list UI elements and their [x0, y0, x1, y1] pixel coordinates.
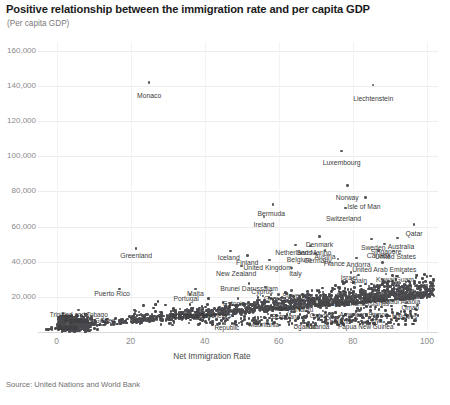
data-point [338, 290, 341, 293]
x-tick-label: 0 [37, 336, 77, 346]
data-point [429, 275, 432, 278]
y-tick-label: 60,000 [2, 222, 36, 231]
data-point [199, 322, 202, 325]
data-point [404, 323, 407, 326]
data-point [418, 295, 421, 298]
data-point [96, 328, 99, 331]
point-label: Turkey [271, 306, 290, 312]
x-tick-label: 60 [259, 336, 299, 346]
data-point [311, 289, 314, 292]
data-point [201, 305, 204, 308]
data-point [265, 305, 268, 308]
gridline-vertical [279, 42, 280, 332]
data-point-labeled [324, 249, 327, 252]
point-label: Bosnia [58, 325, 78, 331]
y-tick-label: 80,000 [2, 186, 36, 195]
data-point-labeled [272, 203, 275, 206]
data-point [93, 327, 96, 330]
data-point [374, 308, 377, 311]
data-point [354, 319, 357, 322]
data-point [374, 289, 377, 292]
data-point [407, 287, 410, 290]
data-point [160, 319, 163, 322]
y-tick-label: 40,000 [2, 257, 36, 266]
data-point [359, 285, 362, 288]
data-point-labeled [148, 81, 151, 84]
data-point [179, 308, 182, 311]
data-point [426, 275, 429, 278]
data-point [388, 291, 391, 294]
data-point [135, 321, 138, 324]
data-point [204, 320, 207, 323]
point-label: Greenland [120, 253, 152, 260]
chart-subtitle: (Per capita GDP) [7, 19, 69, 28]
data-point [153, 318, 156, 321]
data-point [432, 288, 435, 291]
data-point [211, 323, 214, 326]
source-note: Source: United Nations and World Bank [6, 380, 140, 389]
data-point [334, 311, 337, 314]
data-point [376, 292, 379, 295]
y-tick-label: 20,000 [2, 292, 36, 301]
point-label: Liechtenstein [353, 96, 393, 103]
point-label: Greece [264, 296, 286, 303]
gridline-horizontal [38, 51, 438, 52]
data-point [156, 315, 159, 318]
data-point-labeled [309, 245, 312, 248]
data-point-labeled [350, 271, 353, 274]
data-point [206, 303, 209, 306]
data-point-labeled [135, 247, 138, 250]
data-point [257, 317, 260, 320]
data-point [207, 297, 210, 300]
point-label: Bermuda [258, 211, 286, 218]
chart-title: Positive relationship between the immigr… [6, 3, 370, 15]
data-point [391, 308, 394, 311]
data-point [165, 319, 168, 322]
point-label: United States [375, 254, 416, 261]
x-tick-label: 80 [333, 336, 373, 346]
data-point [342, 283, 345, 286]
data-point [148, 317, 151, 320]
data-point [428, 295, 431, 298]
data-point [240, 314, 243, 317]
data-point [146, 313, 149, 316]
data-point [375, 286, 378, 289]
data-point [119, 319, 122, 322]
data-point [402, 287, 405, 290]
data-point [400, 290, 403, 293]
point-label: New Zealand [216, 271, 256, 278]
point-label: Qatar [405, 231, 422, 238]
gridline-horizontal [38, 191, 438, 192]
y-tick-label: 100,000 [2, 151, 36, 160]
point-label: Rwanda [306, 324, 329, 330]
x-tick-label: 100 [407, 336, 447, 346]
data-point-labeled [370, 238, 373, 241]
data-point-labeled [246, 254, 249, 257]
data-point [347, 288, 350, 291]
data-point [154, 303, 157, 306]
data-point [331, 289, 334, 292]
data-point [301, 316, 304, 319]
data-point [287, 300, 290, 303]
data-point [330, 294, 333, 297]
data-point [248, 317, 251, 320]
point-label: Luxembourg [323, 160, 361, 167]
data-point [252, 311, 255, 314]
data-point [321, 287, 324, 290]
point-label: Mauritania [249, 322, 279, 328]
data-point [168, 322, 171, 325]
data-point-labeled [346, 184, 349, 187]
point-label: Nauru [296, 307, 313, 313]
data-point-labeled [364, 196, 367, 199]
data-point [421, 277, 424, 280]
y-tick-label: 140,000 [2, 81, 36, 90]
gridline-horizontal [38, 156, 438, 157]
point-label: Italy [289, 271, 301, 278]
x-tick-label: 40 [185, 336, 225, 346]
data-point [369, 292, 372, 295]
point-label: Papua New Guinea [338, 324, 393, 330]
point-label: Guam [395, 277, 414, 284]
point-label: France [324, 261, 345, 268]
data-point [397, 323, 400, 326]
data-point [318, 291, 321, 294]
